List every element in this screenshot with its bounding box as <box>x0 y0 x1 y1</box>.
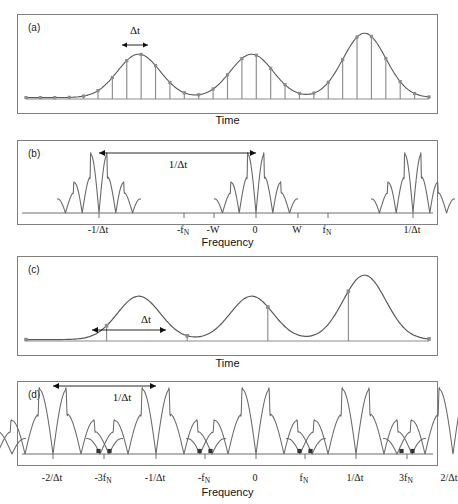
fold-point-marker <box>107 449 111 453</box>
sample-marker <box>312 91 315 94</box>
sample-marker <box>105 324 109 328</box>
one-over-delta-t-arrow-d <box>53 383 156 389</box>
sample-marker <box>125 59 128 62</box>
tick-label: fN <box>300 472 309 485</box>
sample-marker <box>283 83 286 86</box>
tick-label: -3fN <box>94 472 111 485</box>
axis-caption-time-c: Time <box>0 357 455 369</box>
sample-marker <box>266 305 270 309</box>
sample-marker <box>427 95 430 98</box>
fold-point-marker <box>308 449 312 453</box>
delta-t-arrow-c <box>92 327 166 333</box>
tick-label: -1/Δt <box>145 472 165 483</box>
sample-marker <box>185 334 189 338</box>
tick-label: 3fN <box>399 472 413 485</box>
sample-marker <box>111 76 114 79</box>
sample-marker <box>399 80 402 83</box>
axis-ticks-d <box>53 454 407 459</box>
spectrum-replica <box>383 388 458 454</box>
sample-marker <box>413 92 416 95</box>
panel-a-plot <box>18 15 437 113</box>
sample-marker <box>427 337 431 341</box>
sample-marker <box>384 57 387 60</box>
sample-marker <box>183 91 186 94</box>
fold-point-marker <box>208 449 212 453</box>
sample-marker <box>197 93 200 96</box>
one-over-delta-t-arrow-b <box>99 150 256 156</box>
tick-label: -fN <box>198 472 210 485</box>
panel-a: (a) Δt <box>17 14 438 114</box>
sample-marker <box>370 35 373 38</box>
fold-point-marker <box>297 449 301 453</box>
sample-marker <box>82 94 85 97</box>
sample-marker <box>347 289 351 293</box>
sample-markers-c <box>24 289 431 341</box>
axis-caption-frequency-b: Frequency <box>0 236 455 248</box>
aliased-spectra-d <box>0 388 458 454</box>
fold-point-marker <box>399 449 403 453</box>
fold-point-marker <box>197 449 201 453</box>
delta-t-label-a: Δt <box>130 24 140 36</box>
sample-marker <box>168 81 171 84</box>
sample-stems-a <box>26 36 429 99</box>
panel-d: (d) 1/Δt <box>17 381 438 466</box>
axis-caption-time-a: Time <box>0 114 455 126</box>
tick-label: -1/Δt <box>88 224 108 235</box>
sample-marker <box>341 58 344 61</box>
panel-c: (c) Δt <box>17 256 438 356</box>
tick-label: 0 <box>253 472 258 483</box>
axis-caption-frequency-d: Frequency <box>0 486 455 498</box>
delta-t-arrow-a <box>122 42 148 47</box>
sample-marker <box>240 57 243 60</box>
sample-marker <box>298 92 301 95</box>
panel-b-plot <box>18 141 437 224</box>
tick-label: -2/Δt <box>42 472 62 483</box>
panel-b: (b) 1/Δt <box>17 140 438 225</box>
sample-marker <box>255 54 258 57</box>
sample-marker <box>226 73 229 76</box>
tick-label: 1/Δt <box>404 224 421 235</box>
tick-label: 0 <box>253 224 258 235</box>
tick-label: W <box>292 224 301 235</box>
sample-marker <box>327 81 330 84</box>
fold-point-marker <box>96 449 100 453</box>
sample-marker <box>154 64 157 67</box>
tick-label: 2/Δt <box>441 472 458 483</box>
fold-point-marker <box>410 449 414 453</box>
sample-marker <box>96 89 99 92</box>
sample-marker <box>355 35 358 38</box>
delta-t-label-c: Δt <box>141 313 151 325</box>
tick-label: -W <box>207 224 220 235</box>
sample-marker <box>212 87 215 90</box>
signal-envelope-c <box>26 275 429 339</box>
panel-d-plot <box>18 382 437 465</box>
tick-label: 1/Δt <box>347 472 364 483</box>
axis-ticks-b <box>99 213 413 218</box>
sample-marker <box>140 53 143 56</box>
panel-c-plot <box>18 257 437 355</box>
one-over-delta-t-label-b: 1/Δt <box>169 158 188 170</box>
sample-marker <box>269 67 272 70</box>
one-over-delta-t-label-d: 1/Δt <box>113 391 132 403</box>
spectrum-curve-b <box>57 153 455 213</box>
